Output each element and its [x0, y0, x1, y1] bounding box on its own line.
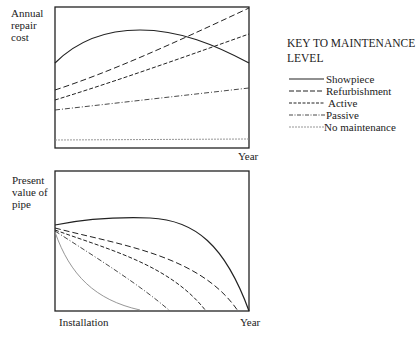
legend: Showpiece Refurbishment Active Passive N… — [288, 73, 396, 133]
legend-title: KEY TO MAINTENANCE LEVEL — [287, 36, 415, 66]
legend-item-showpiece: Showpiece — [288, 73, 396, 85]
legend-label: Showpiece — [326, 73, 374, 85]
legend-label: Passive — [326, 109, 359, 121]
bottom-series-active — [55, 230, 206, 311]
top-chart — [55, 7, 249, 148]
long-dash-line-icon — [288, 85, 326, 97]
legend-item-no-maintenance: No maintenance — [288, 121, 396, 133]
top-series-active — [55, 34, 249, 100]
bottom-series-showpiece — [55, 218, 249, 311]
legend-label: Refurbishment — [326, 85, 391, 97]
bottom-chart-frame — [55, 171, 249, 311]
dash-dot-line-icon — [288, 109, 326, 121]
legend-item-passive: Passive — [288, 109, 396, 121]
legend-label: No maintenance — [324, 121, 396, 133]
solid-line-icon — [288, 73, 326, 85]
legend-item-active: Active — [288, 97, 396, 109]
bottom-series-refurbishment — [55, 228, 238, 311]
legend-item-refurbishment: Refurbishment — [288, 85, 396, 97]
legend-label: Active — [328, 97, 357, 109]
top-series-showpiece — [55, 30, 249, 63]
bottom-series-passive — [55, 231, 170, 311]
legend-title-line2: LEVEL — [287, 51, 415, 66]
dotted-line-icon — [288, 121, 326, 133]
legend-title-line1: KEY TO MAINTENANCE — [287, 36, 415, 51]
top-chart-frame — [55, 7, 249, 148]
bottom-chart — [55, 171, 249, 311]
top-series-no-maintenance — [55, 139, 249, 140]
short-dash-line-icon — [288, 97, 326, 109]
bottom-series-no-maintenance — [55, 232, 140, 310]
